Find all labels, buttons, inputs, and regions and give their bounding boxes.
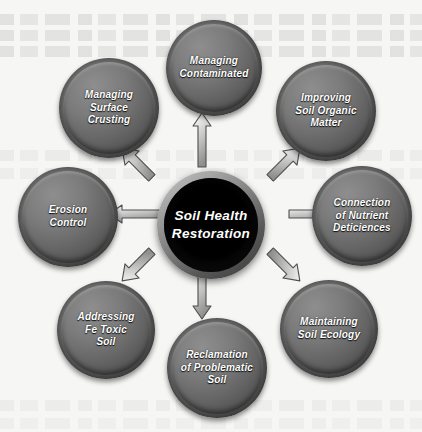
node-label-line: Matter [295,117,356,130]
node-label: Managing Surface Crusting [78,89,140,127]
center-node-soil-health-restoration[interactable]: Soil Health Restoration [157,171,265,279]
node-label-line: Maintaining [298,316,360,329]
node-label-line: of Nutrient [333,210,391,223]
node-label-line: Soil Ecology [298,329,360,342]
node-label-line: Deticiences [333,222,391,235]
arrow-up-icon [192,112,212,168]
node-erosion-control[interactable]: Erosion Control [18,167,118,267]
node-label-line: Surface [85,102,133,115]
node-label-line: Erosion [49,204,88,217]
node-label-line: of Problematic [181,362,253,375]
center-node-label: Soil Health Restoration [172,207,250,242]
node-improving-soil-organic-matter[interactable]: Improving Soil Organic Matter [276,61,376,161]
node-label: Addressing Fe Toxic Soil [70,311,141,349]
node-managing-surface-crusting[interactable]: Managing Surface Crusting [59,58,159,158]
node-label: Maintaining Soil Ecology [291,316,367,342]
page-bleed-through-texture [0,418,422,429]
node-label: Connection of Nutrient Deticiences [326,197,398,235]
node-label-line: Addressing [77,311,134,324]
node-label: Erosion Control [42,204,95,230]
center-node-label-line: Soil Health [172,207,250,225]
node-connection-of-nutrient-deficiences[interactable]: Connection of Nutrient Deticiences [312,166,412,266]
node-label-line: Control [49,217,88,230]
node-label-line: Crusting [85,114,133,127]
node-label-line: Reclamation [181,349,253,362]
node-maintaining-soil-ecology[interactable]: Maintaining Soil Ecology [280,280,378,378]
node-label-line: Improving [295,92,356,105]
node-label-line: Soil [77,336,134,349]
node-label-line: Managing [85,89,133,102]
node-label-line: Managing [179,55,248,68]
diagram-canvas: Managing Contaminated Improving Soil Org… [0,0,422,432]
node-label: Improving Soil Organic Matter [288,92,363,130]
node-reclamation-of-problematic-soil[interactable]: Reclamation of Problematic Soil [167,318,267,418]
node-label: Reclamation of Problematic Soil [174,349,260,387]
arrow-down-right-icon [262,243,308,289]
node-label-line: Connection [333,197,391,210]
node-label-line: Fe Toxic [77,324,134,337]
node-label-line: Contaminated [179,68,248,81]
node-managing-contaminated[interactable]: Managing Contaminated [166,20,262,116]
center-node-label-line: Restoration [172,225,250,243]
arrow-down-left-icon [114,243,160,289]
node-label: Managing Contaminated [172,55,255,81]
node-addressing-fe-toxic-soil[interactable]: Addressing Fe Toxic Soil [57,281,155,379]
node-label-line: Soil Organic [295,105,356,118]
node-label-line: Soil [181,374,253,387]
